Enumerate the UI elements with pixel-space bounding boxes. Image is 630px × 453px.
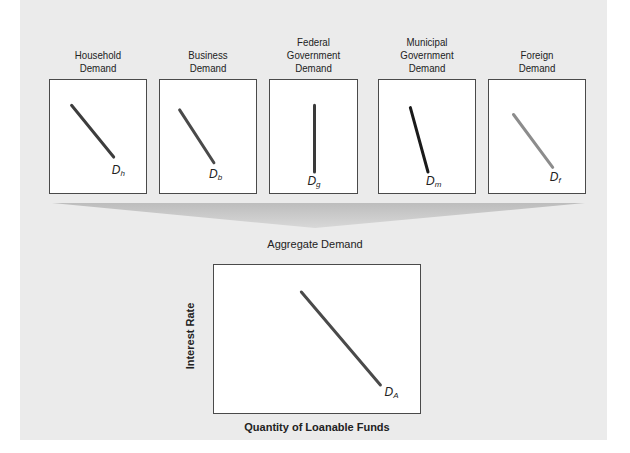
panel-title-federal-government: FederalGovernmentDemand bbox=[266, 36, 362, 75]
panel-title-line: Demand bbox=[266, 62, 362, 75]
curve-label-municipal-government: Dm bbox=[426, 174, 441, 189]
panel-title-line: Household bbox=[46, 49, 150, 62]
panel-title-line: Federal bbox=[266, 36, 362, 49]
panel-title-line: Government bbox=[266, 49, 362, 62]
demand-graph-foreign: Df bbox=[488, 79, 586, 194]
demand-graph-household: Dh bbox=[49, 79, 147, 194]
demand-curve-svg bbox=[489, 80, 587, 195]
demand-curve-foreign bbox=[514, 115, 553, 168]
demand-graph-business: Db bbox=[159, 79, 257, 194]
y-axis-label: Interest Rate bbox=[184, 296, 196, 376]
panel-title-line: Demand bbox=[46, 62, 150, 75]
demand-curve-household bbox=[72, 105, 114, 157]
demand-curve-municipal-government bbox=[410, 108, 428, 172]
curve-label-foreign: Df bbox=[550, 170, 561, 185]
demand-curve-business bbox=[180, 110, 214, 163]
curve-label-federal-government: Dg bbox=[307, 174, 320, 189]
demand-graph-municipal-government: Dm bbox=[378, 79, 476, 194]
x-axis-label: Quantity of Loanable Funds bbox=[213, 421, 421, 433]
panel-title-line: Foreign bbox=[485, 49, 589, 62]
aggregate-demand-title: Aggregate Demand bbox=[0, 238, 630, 250]
aggregate-demand-graph: DA bbox=[213, 264, 421, 414]
curve-label-household: Dh bbox=[112, 163, 125, 178]
curve-label-business: Db bbox=[209, 167, 222, 182]
demand-graph-federal-government: Dg bbox=[269, 79, 358, 194]
panel-title-business: BusinessDemand bbox=[156, 49, 260, 75]
panel-title-line: Government bbox=[375, 49, 479, 62]
demand-curve-svg bbox=[50, 80, 148, 195]
aggregate-curve-label: DA bbox=[385, 385, 399, 400]
panel-title-municipal-government: MunicipalGovernmentDemand bbox=[375, 36, 479, 75]
panel-title-line: Demand bbox=[485, 62, 589, 75]
aggregate-demand-curve bbox=[301, 292, 380, 385]
arrow-shape bbox=[52, 203, 585, 228]
panel-title-line: Municipal bbox=[375, 36, 479, 49]
panel-title-line: Demand bbox=[156, 62, 260, 75]
panel-title-line: Demand bbox=[375, 62, 479, 75]
panel-title-household: HouseholdDemand bbox=[46, 49, 150, 75]
panel-title-line: Business bbox=[156, 49, 260, 62]
panel-title-foreign: ForeignDemand bbox=[485, 49, 589, 75]
